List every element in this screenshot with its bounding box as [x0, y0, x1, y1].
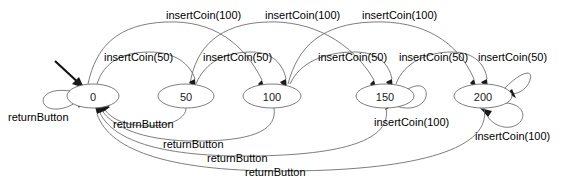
state-node-100[interactable]: 100: [243, 84, 301, 108]
transition-label-s150-self-100: insertCoin(100): [374, 117, 449, 128]
state-diagram: 0 50 100 150 200 insertCoin(100) insertC…: [0, 0, 567, 188]
transition-label-s100-s150: insertCoin(50): [318, 52, 387, 63]
transition-label-s100-s200: insertCoin(100): [362, 10, 437, 21]
transition-label-s50-s100: insertCoin(50): [203, 52, 272, 63]
state-node-200[interactable]: 200: [454, 84, 512, 108]
transition-label-s50-s0: returnButton: [113, 119, 174, 130]
state-diagram-canvas: 0 50 100 150 200: [0, 0, 567, 188]
state-node-150[interactable]: 150: [356, 84, 414, 108]
transition-label-s0-s100: insertCoin(100): [166, 10, 241, 21]
transition-label-s150-s0: returnButton: [207, 153, 268, 164]
state-label: 200: [474, 91, 492, 103]
transition-label-s0-s50: insertCoin(50): [104, 52, 173, 63]
transition-label-s200-self-100: insertCoin(100): [475, 131, 550, 142]
state-label: 150: [376, 91, 394, 103]
edge-s150-s0: [100, 108, 387, 156]
arrowhead-s200-self-100: [480, 108, 492, 117]
state-node-0[interactable]: 0: [67, 84, 119, 108]
state-label: 100: [263, 91, 281, 103]
transition-label-s200-self-50: insertCoin(50): [478, 52, 547, 63]
transition-label-s0-self-return: returnButton: [8, 112, 69, 123]
state-label: 0: [90, 91, 96, 103]
transition-label-s100-s0: returnButton: [163, 139, 224, 150]
transition-label-s150-s200: insertCoin(50): [399, 52, 468, 63]
transition-label-s200-s0: returnButton: [245, 167, 306, 178]
state-label: 50: [180, 91, 192, 103]
state-node-50[interactable]: 50: [158, 84, 214, 108]
transition-label-s50-s150: insertCoin(100): [265, 10, 340, 21]
